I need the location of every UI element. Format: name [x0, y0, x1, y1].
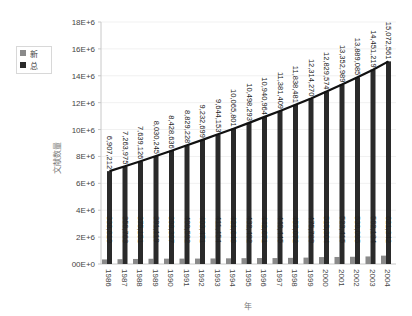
value-label-new: 432,492	[245, 216, 254, 243]
bar-new	[381, 256, 386, 264]
value-label-new: 515,304	[322, 216, 331, 243]
x-tick-label: 1993	[213, 269, 222, 287]
x-tick-label: 1995	[244, 269, 253, 287]
x-tick-label: 2002	[352, 269, 361, 287]
bar-new	[257, 258, 262, 264]
value-label-total: 8,428,636	[167, 115, 176, 148]
value-label-total: 6,907,212	[105, 136, 114, 169]
y-tick-label: 6E+6	[76, 179, 95, 188]
legend: 新 总	[16, 46, 52, 74]
value-label-total: 11,838,481	[291, 66, 300, 103]
bar-new	[180, 259, 185, 264]
x-tick-label: 1988	[135, 269, 144, 287]
bar-total	[185, 145, 190, 264]
value-label-new: 538,095	[353, 216, 362, 243]
bar-new	[149, 259, 154, 264]
value-label-total: 14,451,219	[369, 30, 378, 68]
x-tick-label: 1994	[228, 269, 237, 287]
x-tick-label: 1991	[182, 269, 191, 287]
value-label-total: 8,829,228	[183, 110, 192, 143]
value-label-new: 621,342	[384, 216, 393, 243]
value-label-new: 562,134	[369, 216, 378, 243]
x-tick-label: 1998	[290, 269, 299, 287]
value-label-new: 338,819	[105, 216, 114, 243]
x-axis-ticks: 1986198719881989199019911992199319941995…	[104, 269, 392, 287]
bar-new	[102, 259, 107, 264]
value-label-total: 12,314,270	[307, 59, 316, 97]
value-label-new: 442,671	[260, 216, 269, 243]
x-axis-title: 年	[244, 301, 252, 311]
bar-new	[164, 259, 169, 264]
legend-label-total: 总	[30, 60, 38, 71]
bar-new	[288, 258, 293, 264]
bar-new	[118, 259, 123, 264]
value-label-new: 523,415	[338, 216, 347, 243]
value-label-total: 13,889,085	[353, 38, 362, 76]
x-tick-label: 2004	[383, 269, 392, 287]
chart: 00E+02E+64E+66E+68E+610E+612E+614E+616E+…	[0, 0, 412, 316]
bar-total	[169, 151, 174, 264]
x-tick-label: 1992	[197, 269, 206, 287]
x-tick-label: 1989	[151, 269, 160, 287]
value-label-total: 10,498,293	[245, 83, 254, 121]
bar-total	[138, 161, 143, 264]
x-tick-label: 1986	[104, 269, 113, 287]
bar-new	[211, 258, 216, 264]
value-label-new: 421,648	[229, 216, 238, 243]
x-tick-label: 1999	[306, 269, 315, 287]
value-label-new: 411,454	[214, 216, 223, 243]
y-tick-label: 8E+6	[76, 152, 95, 161]
value-label-new: 400,592	[183, 216, 192, 243]
x-tick-label: 2001	[337, 269, 346, 287]
x-tick-label: 1987	[120, 269, 129, 287]
value-label-new: 457,072	[291, 216, 300, 243]
value-label-total: 7,263,975	[121, 131, 130, 164]
y-tick-label: 4E+6	[76, 206, 95, 215]
value-label-new: 403,471	[198, 216, 207, 243]
x-tick-label: 2003	[368, 269, 377, 287]
value-label-total: 8,030,245	[152, 121, 161, 154]
value-label-new: 398,397	[167, 216, 176, 243]
bar-new	[304, 258, 309, 264]
x-tick-label: 1996	[259, 269, 268, 287]
value-label-total: 13,352,989	[338, 45, 347, 83]
y-tick-label: 14E+6	[72, 72, 96, 81]
bar-new	[242, 258, 247, 264]
x-tick-label: 1997	[275, 269, 284, 287]
value-label-new: 391,119	[152, 216, 161, 243]
bar-total	[216, 134, 221, 264]
bar-new	[335, 257, 340, 264]
value-label-new: 440,445	[276, 216, 285, 243]
bar-new	[195, 259, 200, 264]
bar-new	[133, 259, 138, 264]
y-tick-label: 00E+0	[72, 260, 96, 269]
legend-swatch-total	[20, 62, 26, 68]
bar-new	[226, 258, 231, 264]
y-axis-ticks: 00E+02E+64E+66E+68E+610E+612E+614E+616E+…	[72, 18, 101, 269]
value-label-total: 10,065,801	[229, 89, 238, 127]
bar-total	[154, 156, 159, 264]
value-label-new: 375,151	[136, 216, 145, 243]
x-tick-label: 2000	[321, 269, 330, 287]
legend-item-total: 总	[17, 59, 51, 71]
value-label-total: 15,072,561	[384, 22, 393, 60]
value-label-total: 12,829,574	[322, 52, 331, 90]
bar-total	[200, 140, 205, 264]
y-tick-label: 2E+6	[76, 233, 95, 242]
value-label-total: 9,644,153	[214, 99, 223, 132]
legend-item-new: 新	[17, 47, 51, 59]
y-axis-title: 文献数量	[52, 142, 62, 174]
y-tick-label: 10E+6	[72, 126, 96, 135]
x-tick-label: 1990	[166, 269, 175, 287]
y-tick-label: 18E+6	[72, 18, 96, 27]
legend-label-new: 新	[30, 48, 38, 59]
bar-new	[350, 257, 355, 264]
bar-total	[231, 129, 236, 264]
bar-new	[273, 258, 278, 264]
value-label-new: 475,789	[307, 216, 316, 243]
value-label-total: 7,639,126	[136, 126, 145, 159]
bar-new	[319, 257, 324, 264]
y-tick-label: 12E+6	[72, 99, 96, 108]
value-label-total: 9,232,699	[198, 104, 207, 137]
value-label-total: 10,940,964	[260, 77, 269, 115]
